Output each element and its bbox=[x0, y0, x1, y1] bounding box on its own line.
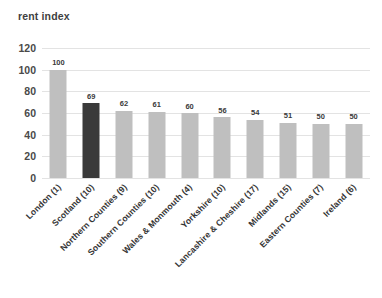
x-tick: Yorkshire (10) bbox=[206, 180, 239, 298]
y-tick-label: 40 bbox=[0, 129, 36, 140]
chart-title: rent index bbox=[18, 10, 70, 22]
plot-area: 100696261605654515050 bbox=[42, 48, 370, 178]
bar-group[interactable]: 69 bbox=[75, 48, 108, 178]
x-tick: Eastern Counties (7) bbox=[304, 180, 337, 298]
bar-group[interactable]: 54 bbox=[239, 48, 272, 178]
bar[interactable] bbox=[345, 124, 362, 178]
x-tick: Ireland (6) bbox=[337, 180, 370, 298]
bar[interactable] bbox=[181, 113, 198, 178]
bar[interactable] bbox=[279, 123, 296, 178]
bar-group[interactable]: 51 bbox=[272, 48, 305, 178]
y-tick-label: 0 bbox=[0, 173, 36, 184]
bar-value-label: 51 bbox=[284, 112, 292, 120]
bar-value-label: 56 bbox=[218, 107, 226, 115]
y-tick-label: 100 bbox=[0, 64, 36, 75]
rent-index-bar-chart: rent index 020406080100120 1006962616056… bbox=[0, 0, 382, 298]
bar-group[interactable]: 50 bbox=[337, 48, 370, 178]
bar-value-label: 62 bbox=[120, 100, 128, 108]
bar-group[interactable]: 100 bbox=[42, 48, 75, 178]
bar-group[interactable]: 60 bbox=[173, 48, 206, 178]
y-tick-label: 20 bbox=[0, 151, 36, 162]
bar[interactable] bbox=[247, 120, 264, 179]
bar-value-label: 61 bbox=[153, 101, 161, 109]
y-tick-label: 80 bbox=[0, 86, 36, 97]
bar-value-label: 50 bbox=[349, 113, 357, 121]
y-tick-label: 60 bbox=[0, 108, 36, 119]
bar-value-label: 69 bbox=[87, 93, 95, 101]
bar-group[interactable]: 50 bbox=[304, 48, 337, 178]
bar-group[interactable]: 56 bbox=[206, 48, 239, 178]
y-axis: 020406080100120 bbox=[0, 48, 36, 178]
bar[interactable] bbox=[83, 103, 100, 178]
bar[interactable] bbox=[214, 117, 231, 178]
bar-value-label: 100 bbox=[52, 59, 65, 67]
bar[interactable] bbox=[115, 111, 132, 178]
bar-value-label: 50 bbox=[317, 113, 325, 121]
bar[interactable] bbox=[148, 112, 165, 178]
x-tick: Midlands (15) bbox=[272, 180, 305, 298]
bar-group[interactable]: 61 bbox=[140, 48, 173, 178]
gridline bbox=[42, 178, 370, 179]
bar-value-label: 60 bbox=[185, 103, 193, 111]
y-tick-label: 120 bbox=[0, 43, 36, 54]
x-tick: Southern Counties (10) bbox=[140, 180, 173, 298]
bar-value-label: 54 bbox=[251, 109, 259, 117]
x-axis: London (1)Scotland (10)Northern Counties… bbox=[42, 180, 370, 298]
bar-group[interactable]: 62 bbox=[108, 48, 141, 178]
bar[interactable] bbox=[50, 70, 67, 178]
bar[interactable] bbox=[312, 124, 329, 178]
